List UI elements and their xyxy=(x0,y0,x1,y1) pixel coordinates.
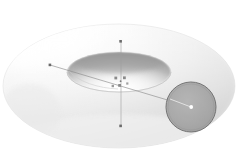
cross-section-center-dot xyxy=(189,105,193,109)
vertical-axis-tick-bottom xyxy=(119,125,122,128)
torus-diagram-canvas: Torus with tube cross-section xyxy=(0,0,238,165)
radial-axis-tick-left xyxy=(49,64,52,67)
torus-svg xyxy=(0,0,238,165)
torus-left-shadow xyxy=(0,84,60,140)
vertical-axis-tick-top xyxy=(119,40,122,43)
